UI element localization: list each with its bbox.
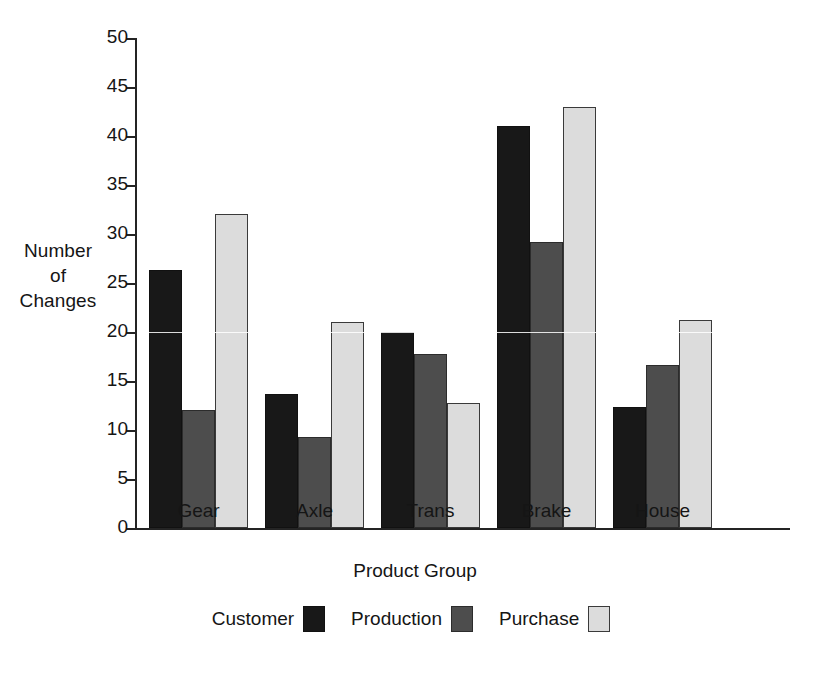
y-axis-tick-label: 35: [107, 173, 128, 194]
bar-brake-customer: [497, 126, 530, 528]
legend-label-production: Production: [351, 608, 442, 630]
bar-house-purchase: [679, 320, 712, 528]
bar-gear-customer: [149, 270, 182, 528]
bar-trans-customer: [381, 332, 414, 528]
y-axis-title-line-3: Changes: [6, 288, 110, 313]
y-axis-tick-label: 5: [117, 467, 128, 488]
y-axis-tick-label: 30: [107, 222, 128, 243]
y-axis-title-line-2: of: [6, 263, 110, 288]
x-axis-line: [135, 528, 790, 530]
bar-brake-production: [530, 242, 563, 528]
y-axis-tick-label: 15: [107, 369, 128, 390]
y-axis-title: Number of Changes: [6, 238, 110, 313]
x-axis-label-axle: Axle: [255, 500, 375, 522]
legend-swatch-customer: [303, 606, 325, 632]
y-axis-tick-label: 25: [107, 271, 128, 292]
y-axis-tick-label: 40: [107, 124, 128, 145]
y-axis-title-line-1: Number: [6, 238, 110, 263]
y-axis-line: [135, 38, 137, 530]
legend-swatch-production: [451, 606, 473, 632]
x-axis-label-gear: Gear: [139, 500, 259, 522]
bar-chart: Number of Changes 05101520253035404550 G…: [0, 0, 822, 674]
bar-brake-purchase: [563, 107, 596, 528]
bar-axle-purchase: [331, 322, 364, 528]
legend-label-customer: Customer: [212, 608, 294, 630]
x-axis-label-brake: Brake: [487, 500, 607, 522]
y-axis-tick-label: 20: [107, 320, 128, 341]
x-axis-label-trans: Trans: [371, 500, 491, 522]
legend-swatch-purchase: [588, 606, 610, 632]
legend-item-customer: Customer: [212, 606, 325, 632]
y-axis-tick-label: 0: [117, 516, 128, 537]
chart-legend: CustomerProductionPurchase: [0, 606, 822, 632]
bar-gear-purchase: [215, 214, 248, 528]
x-axis-label-house: House: [603, 500, 723, 522]
plot-area: 05101520253035404550: [135, 38, 790, 530]
y-axis-tick-label: 10: [107, 418, 128, 439]
y-axis-tick-label: 50: [107, 26, 128, 47]
y-axis-tick-label: 45: [107, 75, 128, 96]
legend-item-purchase: Purchase: [499, 606, 610, 632]
legend-label-purchase: Purchase: [499, 608, 579, 630]
x-axis-title: Product Group: [135, 560, 695, 582]
legend-item-production: Production: [351, 606, 473, 632]
